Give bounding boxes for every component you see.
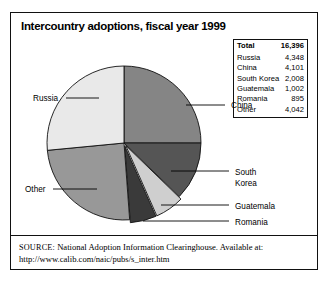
pie-slice-other (47, 143, 129, 220)
slice-label-romania: Romania (235, 218, 268, 227)
row-label-china: China (237, 63, 280, 73)
total-value: 16,396 (280, 41, 304, 52)
figure-panel: Intercountry adoptions, fiscal year 1999… (10, 12, 318, 270)
row-label-south-korea: South Korea (237, 73, 280, 83)
source-label: SOURCE: (19, 243, 55, 252)
row-value-other: 4,042 (280, 104, 304, 114)
row-label-guatemala: Guatemala (237, 84, 280, 94)
pie-slice-russia (47, 66, 124, 150)
table-row: China 4,101 (237, 63, 304, 73)
source-text: National Adoption Information Clearingho… (57, 242, 263, 252)
table-row: Russia 4,348 (237, 52, 304, 62)
pie-slice-romania (125, 146, 156, 223)
row-value-china: 4,101 (280, 63, 304, 73)
pie-leader-lines (53, 98, 229, 221)
slice-label-guatemala: Guatemala (235, 202, 275, 211)
adoption-counts-table: Total 16,396 Russia 4,348 China 4,101 So… (237, 41, 304, 115)
table-row: Romania 895 (237, 94, 304, 104)
table-row: Guatemala 1,002 (237, 84, 304, 94)
source-url: http://www.calib.com/naic/pubs/s_inter.h… (19, 254, 170, 264)
pie-slice-guatemala (126, 145, 181, 215)
slice-label-south-korea-line1: South (235, 168, 257, 177)
table-row-total: Total 16,396 (237, 41, 304, 52)
row-label-romania: Romania (237, 94, 280, 104)
slice-label-south-korea-line2: Korea (235, 179, 257, 188)
row-value-guatemala: 1,002 (280, 84, 304, 94)
table-row: South Korea 2,008 (237, 73, 304, 83)
row-value-romania: 895 (280, 94, 304, 104)
row-label-other: Other (237, 104, 280, 114)
page-title: Intercountry adoptions, fiscal year 1999 (21, 20, 226, 32)
slice-label-russia: Russia (33, 94, 58, 103)
table-body: Total 16,396 Russia 4,348 China 4,101 So… (237, 41, 304, 115)
pie-slices (47, 66, 201, 223)
row-value-russia: 4,348 (280, 52, 304, 62)
row-label-russia: Russia (237, 52, 280, 62)
source-note: SOURCE: National Adoption Information Cl… (11, 235, 317, 269)
data-table: Total 16,396 Russia 4,348 China 4,101 So… (233, 39, 308, 118)
slice-label-other: Other (25, 185, 46, 194)
table-row: Other 4,042 (237, 104, 304, 114)
total-label: Total (237, 41, 280, 52)
row-value-south-korea: 2,008 (280, 73, 304, 83)
pie-slice-china (124, 66, 201, 143)
pie-slice-south-korea (124, 143, 201, 197)
